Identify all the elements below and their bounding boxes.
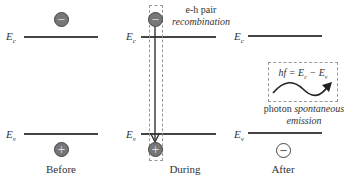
emission-annotation: photon spontaneous emission [256, 103, 352, 127]
valence-band-line [24, 133, 98, 135]
annotation-emission: emission [287, 115, 322, 126]
valence-band-label: Ev [234, 129, 244, 143]
conduction-band-label: Ec [126, 31, 136, 45]
caption-after: After [253, 163, 313, 175]
caption-during: During [155, 163, 215, 175]
conduction-band-line [248, 35, 322, 37]
valence-band-label: Ev [126, 129, 136, 143]
annotation-line-1: e-h pair [166, 4, 236, 16]
conduction-band-label: Ec [234, 31, 244, 45]
conduction-band-line [24, 36, 98, 38]
conduction-band-label: Ec [6, 31, 16, 45]
hole-particle: + [148, 142, 163, 157]
annotation-spontaneous: spontaneous [294, 103, 344, 114]
valence-band-label: Ev [6, 129, 16, 143]
annotation-photon: photon [264, 103, 294, 114]
recombination-annotation: e-h pair recombination [166, 4, 236, 28]
hole-particle: + [54, 142, 69, 157]
photon-wave-arrow-icon [270, 78, 336, 100]
electron-particle: − [148, 12, 163, 27]
electron-particle: − [54, 12, 69, 27]
annotation-line-2: recombination [172, 16, 230, 27]
empty-state-particle: − [276, 143, 291, 158]
caption-before: Before [31, 163, 91, 175]
valence-band-line [248, 132, 322, 134]
